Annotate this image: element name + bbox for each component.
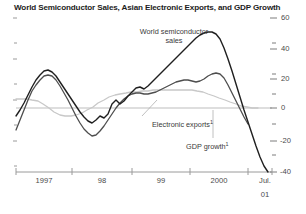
annotation-electronic-exports-text: Electronic exports bbox=[152, 120, 210, 129]
x-axis-label-99: 99 bbox=[144, 176, 178, 185]
annotation-electronic-exports-footnote: 1 bbox=[210, 119, 213, 125]
y-axis-label-20: 20 bbox=[281, 74, 289, 83]
y-axis-label-neg40: -40 bbox=[280, 167, 291, 176]
annotation-gdp-growth-text: GDP growth bbox=[186, 142, 226, 151]
semiconductor-sales-chart: World Semiconductor Sales, Asian Electro… bbox=[0, 0, 306, 214]
annotation-leader-lines bbox=[142, 100, 213, 138]
x-axis-label-jul: Jul. bbox=[252, 176, 278, 185]
annotation-world-semiconductor-sales: World semiconductor sales bbox=[126, 27, 222, 45]
annotation-gdp-growth: GDP growth1 bbox=[186, 142, 229, 151]
y-axis-label-0: 0 bbox=[281, 103, 285, 112]
right-axis-ticks bbox=[270, 18, 277, 172]
annotation-world-semiconductor-sales-line2: sales bbox=[165, 36, 182, 45]
x-axis-label-98: 98 bbox=[85, 176, 119, 185]
y-axis-label-60: 60 bbox=[281, 13, 289, 22]
x-axis-label-2000: 2000 bbox=[202, 176, 236, 185]
x-axis-label-1997: 1997 bbox=[27, 176, 61, 185]
annotation-electronic-exports: Electronic exports1 bbox=[152, 120, 213, 129]
series-gdp-growth bbox=[16, 90, 258, 116]
annotation-world-semiconductor-sales-line1: World semiconductor bbox=[140, 27, 208, 36]
x-axis-label-01: 01 bbox=[252, 190, 278, 199]
y-axis-label-neg20: -20 bbox=[280, 136, 291, 145]
annotation-gdp-growth-footnote: 1 bbox=[226, 141, 229, 147]
left-axis-ticks bbox=[13, 18, 17, 166]
y-axis-label-40: 40 bbox=[281, 44, 289, 53]
